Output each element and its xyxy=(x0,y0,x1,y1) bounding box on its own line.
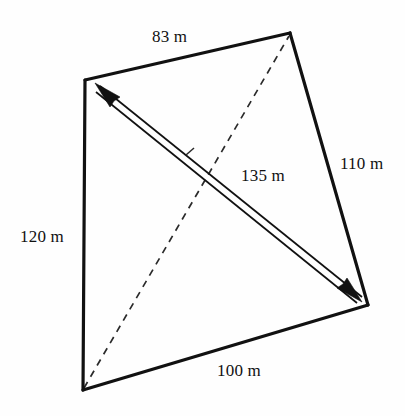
dimension-label-right-edge: 110 m xyxy=(340,155,383,172)
dimension-label-top-edge: 83 m xyxy=(152,28,187,45)
dashed-diagonal-line xyxy=(84,36,289,388)
top-edge-line xyxy=(85,33,290,80)
quadrilateral-figure xyxy=(0,0,405,416)
left-edge-line xyxy=(83,80,85,390)
dimension-label-bottom-edge: 100 m xyxy=(217,362,261,379)
dimension-label-left-edge: 120 m xyxy=(20,228,64,245)
dimension-label-diagonal: 135 m xyxy=(241,167,285,184)
measured-diagonal-rail-upper xyxy=(100,86,362,297)
arrowhead-lower-right xyxy=(337,278,362,302)
geometry-diagram: 83 m 110 m 120 m 100 m 135 m xyxy=(0,0,405,416)
diagonal-tick-mark xyxy=(186,148,194,155)
measured-diagonal-rail-lower xyxy=(96,92,357,303)
